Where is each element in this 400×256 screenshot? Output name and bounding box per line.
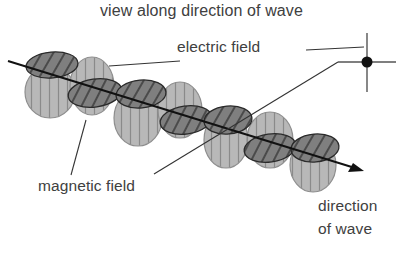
magnetic-field-leader (71, 120, 86, 175)
magnetic-field-label: magnetic field (38, 177, 135, 195)
view-direction-title: view along direction of wave (100, 2, 303, 20)
wave-point-icon (362, 57, 373, 68)
electric-field-label: electric field (177, 38, 260, 56)
direction-label-line2: of wave (318, 220, 372, 238)
end-view-symbol (338, 33, 396, 92)
direction-label-line1: direction (318, 197, 378, 215)
electric-field-leader-view (306, 47, 364, 50)
electric-field-leader (109, 61, 180, 66)
